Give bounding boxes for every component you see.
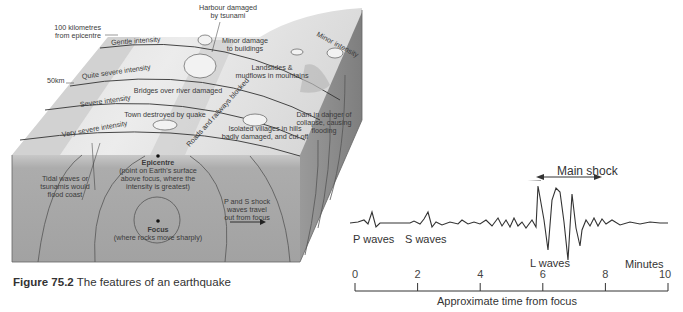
l-waves-label: L waves: [530, 257, 570, 269]
shock-waves-annotation: P and S shock waves travel out from focu…: [222, 198, 272, 222]
landslides-annotation: Landslides & mudflows in mountains: [222, 64, 322, 80]
dam-annotation: Dam in danger of collapse, causing flood…: [289, 111, 359, 135]
tidal-waves-annotation: Tidal waves or tsunamis would flood coas…: [40, 175, 90, 199]
town-annotation: Town destroyed by quake: [115, 111, 215, 119]
x-tick-10: 10: [659, 268, 671, 280]
x-tick-6: 6: [540, 268, 546, 280]
focus-annotation: Focus (where rocks move sharply): [113, 226, 203, 242]
figure-caption: Figure 75.2 The features of an earthquak…: [13, 276, 231, 288]
distance-50km-label: 50km: [47, 77, 65, 85]
p-waves-label: P waves: [353, 233, 394, 245]
x-axis-label: Approximate time from focus: [437, 295, 577, 307]
epicentre-annotation: Epicentre (point on Earth's surface abov…: [118, 159, 198, 191]
figure-title: The features of an earthquake: [74, 276, 231, 288]
trace-line: [350, 186, 668, 260]
distance-100km-label: 100 kilometres from epicentre: [35, 24, 101, 40]
harbour-annotation: Harbour damaged by tsunami: [188, 4, 268, 20]
x-tick-2: 2: [415, 268, 421, 280]
minor-damage-annotation: Minor damage to buildings: [215, 37, 275, 53]
bridges-annotation: Bridges over river damaged: [118, 87, 238, 95]
main-shock-label: Main shock: [557, 164, 618, 178]
minutes-unit-label: Minutes: [625, 258, 664, 270]
time-axis: [350, 280, 680, 296]
s-waves-label: S waves: [405, 233, 447, 245]
x-tick-4: 4: [477, 268, 483, 280]
x-tick-8: 8: [602, 268, 608, 280]
x-tick-0: 0: [352, 268, 358, 280]
focus-dot: [156, 219, 160, 223]
figure-number: Figure 75.2: [13, 276, 74, 288]
main-shock-double-arrow: [350, 165, 680, 185]
